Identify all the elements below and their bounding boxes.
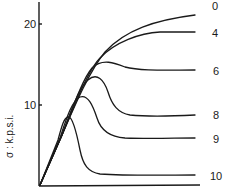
curve-8 [40,77,195,185]
series-label-8: 8 [213,109,219,121]
y-tick-label-10: 10 [24,99,36,111]
series-label-0: 0 [212,0,218,12]
series-label-4: 4 [212,27,218,39]
stress-strain-chart: 20 10 σ : k.p.s.i. 0 4 6 8 9 10 [0,0,227,196]
curve-0 [40,15,195,185]
y-tick-label-20: 20 [24,18,36,30]
series-label-6: 6 [213,65,219,77]
series-label-10: 10 [210,170,222,182]
series-label-9: 9 [213,133,219,145]
y-axis-label: σ : k.p.s.i. [4,115,15,158]
x-axis [39,185,200,186]
